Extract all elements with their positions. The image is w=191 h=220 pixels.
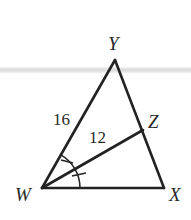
- length-label-wz: 12: [89, 128, 106, 147]
- triangle-diagram: Y W X Z 16 12: [0, 0, 191, 220]
- angle-tick-lower: [72, 173, 86, 176]
- vertex-label-x: X: [168, 184, 182, 205]
- vertex-label-z: Z: [148, 111, 159, 132]
- angle-tick-upper: [61, 160, 73, 163]
- length-label-wy: 16: [53, 110, 70, 129]
- vertex-label-w: W: [15, 184, 33, 205]
- vertex-label-y: Y: [108, 33, 121, 54]
